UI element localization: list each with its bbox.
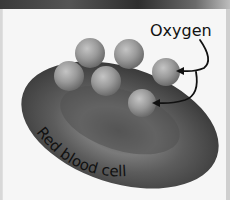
oxygen-sphere <box>128 89 156 117</box>
oxygen-sphere <box>114 39 144 69</box>
oxygen-sphere <box>152 58 180 86</box>
oxygen-label: Oxygen <box>150 21 212 40</box>
oxygen-sphere <box>91 66 121 96</box>
red-blood-cell-diagram: Oxygen Red blood cell <box>0 0 230 200</box>
oxygen-sphere <box>75 38 105 68</box>
oxygen-sphere <box>54 61 84 91</box>
